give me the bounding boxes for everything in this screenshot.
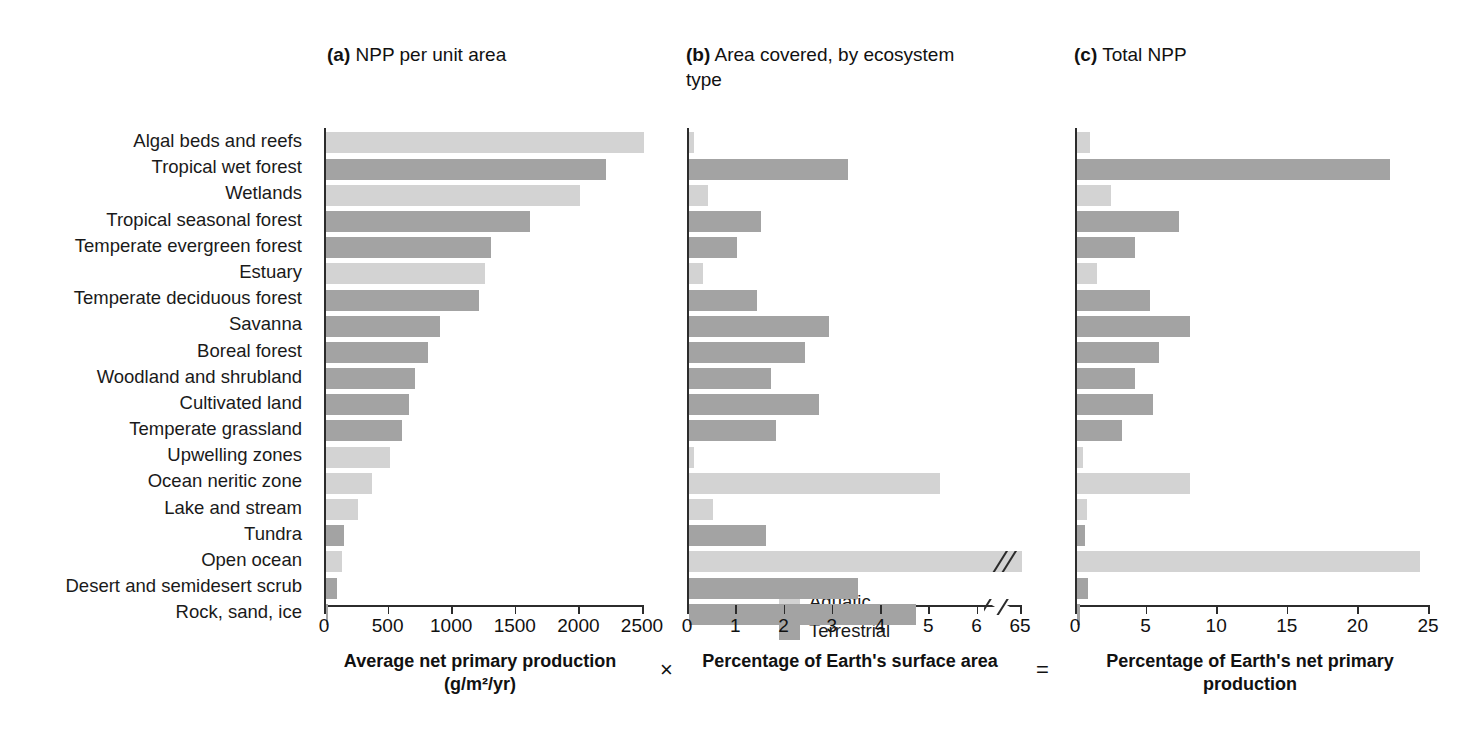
category-label: Temperate deciduous forest bbox=[0, 285, 310, 311]
panel-b-marker: (b) bbox=[686, 44, 710, 65]
bar bbox=[326, 447, 390, 468]
bar bbox=[1077, 551, 1420, 572]
bar-row bbox=[326, 130, 644, 156]
bar-row bbox=[1077, 287, 1430, 313]
bar-row bbox=[1077, 313, 1430, 339]
bar-row bbox=[1077, 418, 1430, 444]
bar-row bbox=[689, 156, 1022, 182]
x-tick bbox=[324, 605, 326, 614]
x-tick bbox=[578, 605, 580, 614]
bar bbox=[326, 368, 415, 389]
bar-row bbox=[326, 261, 644, 287]
panel-c-title-text: Total NPP bbox=[1102, 44, 1186, 65]
bar bbox=[689, 132, 694, 153]
category-label: Rock, sand, ice bbox=[0, 599, 310, 625]
bar-row bbox=[689, 235, 1022, 261]
bar-row bbox=[326, 497, 644, 523]
bar-row bbox=[1077, 340, 1430, 366]
bar-row bbox=[326, 392, 644, 418]
bar bbox=[689, 473, 940, 494]
x-tick bbox=[451, 605, 453, 614]
bar bbox=[1077, 132, 1090, 153]
bar bbox=[689, 551, 1022, 572]
x-tick-label: 10 bbox=[1206, 615, 1227, 637]
bar-row bbox=[1077, 156, 1430, 182]
bar bbox=[326, 290, 479, 311]
bar-row bbox=[326, 313, 644, 339]
npp-figure: (a) NPP per unit area (b) Area covered, … bbox=[0, 0, 1478, 738]
panel-b-plot: 012345665 bbox=[687, 128, 1022, 605]
panel-b-title: (b) Area covered, by ecosystem type bbox=[686, 42, 986, 92]
x-tick-label: 5 bbox=[1140, 615, 1151, 637]
bar bbox=[689, 342, 805, 363]
x-tick-label: 15 bbox=[1276, 615, 1297, 637]
bar-row bbox=[1077, 601, 1430, 627]
bar-row bbox=[1077, 523, 1430, 549]
bar bbox=[326, 159, 606, 180]
bar-row bbox=[326, 287, 644, 313]
x-tick-label: 2 bbox=[778, 615, 789, 637]
bar bbox=[689, 368, 771, 389]
bar-row bbox=[689, 575, 1022, 601]
bar-row bbox=[689, 130, 1022, 156]
bar bbox=[1077, 342, 1159, 363]
x-tick-label: 25 bbox=[1417, 615, 1438, 637]
bar bbox=[689, 394, 819, 415]
bar-row bbox=[1077, 209, 1430, 235]
bar bbox=[326, 263, 485, 284]
category-label: Boreal forest bbox=[0, 338, 310, 364]
x-tick-label: 3 bbox=[826, 615, 837, 637]
bar bbox=[689, 185, 708, 206]
x-tick bbox=[642, 605, 644, 614]
panel-c-plot: 0510152025 bbox=[1075, 128, 1430, 605]
bar bbox=[689, 420, 776, 441]
x-tick-label: 2000 bbox=[557, 615, 599, 637]
category-label: Estuary bbox=[0, 259, 310, 285]
bar bbox=[1077, 290, 1150, 311]
x-tick-label: 1 bbox=[730, 615, 741, 637]
bar-row bbox=[689, 366, 1022, 392]
bar bbox=[326, 211, 530, 232]
category-label: Temperate evergreen forest bbox=[0, 233, 310, 259]
bar bbox=[326, 420, 402, 441]
bar bbox=[326, 525, 344, 546]
bar-row bbox=[1077, 130, 1430, 156]
bar bbox=[689, 159, 848, 180]
panel-c-axis-caption: Percentage of Earth's net primary produc… bbox=[1080, 650, 1420, 696]
category-label: Upwelling zones bbox=[0, 442, 310, 468]
x-tick bbox=[977, 605, 979, 614]
bar-row bbox=[326, 209, 644, 235]
panel-a-title-text: NPP per unit area bbox=[356, 44, 507, 65]
x-tick bbox=[832, 605, 834, 614]
bar bbox=[689, 211, 761, 232]
bar-row bbox=[326, 235, 644, 261]
category-label: Tropical wet forest bbox=[0, 154, 310, 180]
bar-row bbox=[1077, 182, 1430, 208]
bar-row bbox=[1077, 470, 1430, 496]
x-tick bbox=[1216, 605, 1218, 614]
bar bbox=[1077, 394, 1153, 415]
bar bbox=[1077, 578, 1088, 599]
x-tick-label: 4 bbox=[875, 615, 886, 637]
bar-row bbox=[326, 182, 644, 208]
bar-row bbox=[689, 523, 1022, 549]
bar-row bbox=[689, 340, 1022, 366]
x-tick-label: 65 bbox=[1009, 615, 1030, 637]
x-tick-label: 500 bbox=[372, 615, 404, 637]
bar-row bbox=[326, 444, 644, 470]
bar-row bbox=[689, 182, 1022, 208]
bar-row bbox=[689, 209, 1022, 235]
bar-row bbox=[326, 366, 644, 392]
bar bbox=[326, 499, 358, 520]
x-tick-label: 0 bbox=[682, 615, 693, 637]
bar-row bbox=[1077, 497, 1430, 523]
operator-times: × bbox=[660, 657, 673, 683]
bar-row bbox=[689, 444, 1022, 470]
bar bbox=[689, 316, 829, 337]
x-tick-label: 2500 bbox=[621, 615, 663, 637]
category-label: Algal beds and reefs bbox=[0, 128, 310, 154]
bar-row bbox=[1077, 575, 1430, 601]
x-tick-label: 1500 bbox=[494, 615, 536, 637]
bar bbox=[1077, 211, 1179, 232]
bar-row bbox=[689, 497, 1022, 523]
